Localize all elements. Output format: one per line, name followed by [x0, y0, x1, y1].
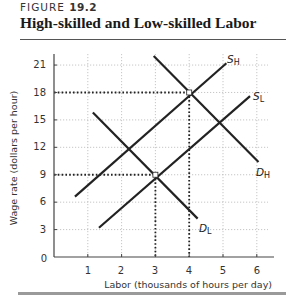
label-supply-high: SH [227, 53, 240, 67]
x-tick-label: 2 [118, 265, 124, 276]
x-tick-label: 4 [186, 265, 192, 276]
y-tick-label: 21 [33, 59, 46, 70]
curve-s-l [99, 96, 250, 228]
y-tick-label: 12 [33, 141, 46, 152]
curve-s-h [75, 63, 226, 196]
curve-d-h [154, 56, 259, 162]
y-tick-label: 6 [40, 196, 46, 207]
y-tick-labels: 3 6 9 12 15 18 21 [33, 59, 46, 235]
x-tick-label: 5 [220, 265, 226, 276]
footer-rule [18, 292, 286, 295]
label-demand-high: DH [256, 166, 270, 180]
label-demand-low: DL [199, 222, 212, 236]
y-tick-label: 3 [40, 224, 46, 235]
x-tick-label: 3 [152, 265, 158, 276]
equilibrium-point [187, 90, 192, 95]
y-tick-label: 9 [40, 169, 46, 180]
x-axis-title: Labor (thousands of hours per day) [104, 279, 272, 290]
y-axis-title: Wage rate (dollars per hour) [8, 91, 19, 226]
y-tick-label: 15 [33, 114, 46, 125]
x-tick-label: 6 [254, 265, 260, 276]
origin-label: 0 [41, 253, 47, 264]
y-tick-label: 18 [33, 87, 46, 98]
x-tick-label: 1 [85, 265, 91, 276]
label-supply-low: SL [253, 90, 265, 104]
equilibrium-point [153, 172, 158, 177]
x-tick-labels: 1 2 3 4 5 6 [85, 265, 260, 276]
chart: 0 1 2 3 4 5 6 3 6 9 12 15 18 21 Labor (t… [0, 0, 298, 304]
grid-lines [54, 54, 268, 257]
